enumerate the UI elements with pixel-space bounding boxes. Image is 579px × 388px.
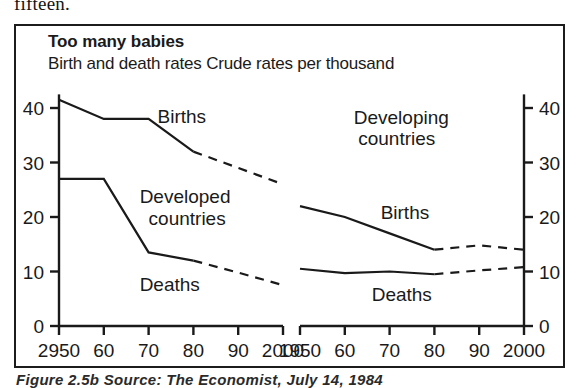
series-line-deaths-dashed (193, 261, 283, 286)
x-tick-label: 1950 (279, 340, 321, 361)
x-tick-label: 2000 (503, 340, 545, 361)
panel-developing-countries: 4030201001950607080902000BirthsDeathsDev… (279, 94, 560, 361)
y-tick-label: 30 (539, 153, 560, 174)
chart-title: Too many babies (48, 32, 184, 52)
x-tick-label: 80 (183, 340, 204, 361)
y-tick-label: 0 (539, 316, 550, 337)
y-tick-label: 40 (539, 98, 560, 119)
series-line-deaths-solid (300, 269, 434, 274)
y-tick-label: 10 (23, 262, 44, 283)
series-line-deaths-dashed (434, 267, 524, 274)
x-tick-label: 60 (93, 340, 114, 361)
panel-label-line-1: Developed (140, 186, 231, 207)
y-tick-label: 40 (23, 98, 44, 119)
chart-subtitle: Birth and death rates Crude rates per th… (48, 54, 394, 74)
panel-label-line-2: countries (149, 208, 226, 229)
y-tick-label: 30 (23, 153, 44, 174)
panel-developed-countries: 4030201002950607080902000BirthsDeathsDev… (23, 94, 304, 361)
x-tick-label: 80 (424, 340, 445, 361)
series-label-births: Births (381, 202, 430, 223)
series-label-deaths: Deaths (372, 284, 432, 305)
x-tick-label: 70 (138, 340, 159, 361)
series-label-deaths: Deaths (140, 274, 200, 295)
x-tick-label: 2950 (38, 340, 80, 361)
panel-label-line-1: Developing (354, 107, 449, 128)
y-tick-label: 20 (23, 207, 44, 228)
panel-label-line-2: countries (358, 128, 435, 149)
series-line-births-dashed (193, 152, 283, 185)
x-tick-label: 90 (469, 340, 490, 361)
y-tick-label: 0 (33, 316, 44, 337)
y-tick-label: 20 (539, 207, 560, 228)
chart-plot-area: 4030201002950607080902000BirthsDeathsDev… (14, 78, 565, 368)
x-tick-label: 60 (334, 340, 355, 361)
y-tick-label: 10 (539, 262, 560, 283)
page-body-text-fragment: fifteen. (14, 0, 70, 15)
x-tick-label: 90 (228, 340, 249, 361)
series-label-births: Births (158, 106, 207, 127)
series-line-births-dashed (434, 245, 524, 249)
figure-caption: Figure 2.5b Source: The Economist, July … (16, 371, 383, 388)
x-tick-label: 70 (379, 340, 400, 361)
